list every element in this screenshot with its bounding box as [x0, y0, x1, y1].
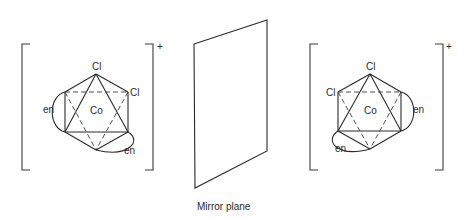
- right-en-arc-right: [401, 92, 414, 131]
- mirror-plane: Mirror plane: [194, 20, 267, 212]
- right-cl-left-label: Cl: [326, 87, 335, 98]
- left-co-label: Co: [90, 105, 103, 116]
- right-complex-charge: +: [446, 41, 452, 52]
- right-en-bottom-label: en: [335, 143, 346, 154]
- left-en-arc-left: [52, 92, 65, 132]
- left-complex: + Cl Cl en en Co: [22, 41, 163, 170]
- right-complex: + Cl Cl en en Co: [310, 41, 452, 170]
- left-en-left-label: en: [43, 104, 54, 115]
- left-cl-right-label: Cl: [130, 87, 139, 98]
- left-complex-close-bracket: [145, 44, 153, 170]
- right-complex-close-bracket: [435, 44, 443, 170]
- right-cl-top-label: Cl: [366, 61, 375, 72]
- right-complex-open-bracket: [310, 44, 318, 170]
- left-en-bottom-label: en: [124, 145, 135, 156]
- enantiomer-diagram: + Cl Cl en en Co: [0, 0, 470, 218]
- right-co-label: Co: [364, 105, 377, 116]
- left-cl-top-label: Cl: [92, 61, 101, 72]
- mirror-plane-caption: Mirror plane: [197, 201, 251, 212]
- mirror-plane-shape: [194, 20, 267, 188]
- left-complex-charge: +: [157, 41, 163, 52]
- right-en-right-label: en: [413, 104, 424, 115]
- left-complex-open-bracket: [22, 44, 30, 170]
